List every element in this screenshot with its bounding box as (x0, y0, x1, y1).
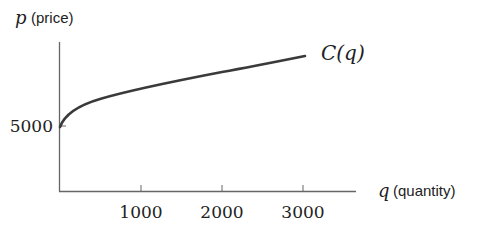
x-tick-label-3000: 3000 (281, 202, 324, 222)
curve-label: C(q) (321, 41, 365, 65)
y-axis-label: (price) (31, 9, 74, 26)
cost-curve (60, 56, 305, 127)
y-axis-variable: p (15, 7, 27, 28)
y-tick-label-5000: 5000 (10, 116, 53, 136)
x-axis-variable: q (378, 180, 390, 201)
cost-chart: p (price) 5000 1000 2000 3000 q (quantit… (0, 0, 485, 225)
x-tick-label-1000: 1000 (119, 202, 162, 222)
x-axis-label: (quantity) (393, 182, 456, 199)
x-tick-label-2000: 2000 (200, 202, 243, 222)
